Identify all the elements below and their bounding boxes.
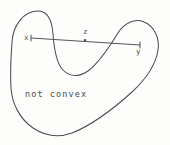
vertex-label-z: z [83,28,88,36]
figure-canvas [0,0,170,145]
chord-segment-xy [31,38,140,45]
vertex-label-x: x [24,34,29,42]
figure-caption: not convex [25,89,87,99]
point-marker-z [84,39,86,41]
vertex-label-y: y [136,48,141,56]
not-convex-figure: x z y not convex [0,0,170,145]
